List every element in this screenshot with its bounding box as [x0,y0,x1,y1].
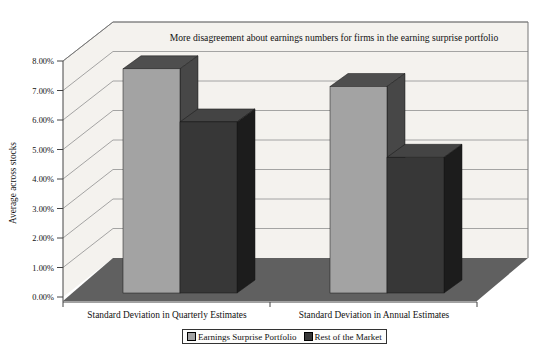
legend-swatch-rest-of-market [304,332,313,341]
chart-legend: Earnings Surprise Portfolio Rest of the … [182,329,387,344]
bar-front-face [123,69,180,293]
chart-plot-area: 0.00%1.00%2.00%3.00%4.00%5.00%6.00%7.00%… [0,0,548,351]
y-tick-label: 2.00% [32,234,54,243]
category-label-quarterly: Standard Deviation in Quarterly Estimate… [87,310,247,320]
chart-title: More disagreement about earnings numbers… [170,32,499,43]
legend-label-earnings-surprise: Earnings Surprise Portfolio [198,332,297,342]
y-axis-title: Average across stocks [8,142,18,224]
chart-3d-column: 0.00%1.00%2.00%3.00%4.00%5.00%6.00%7.00%… [0,0,548,351]
legend-label-rest-of-market: Rest of the Market [315,332,382,342]
bar-front-face [180,122,237,293]
bar-side-face [444,144,462,293]
y-tick-label: 4.00% [32,175,54,184]
category-label-annual: Standard Deviation in Annual Estimates [299,310,450,320]
bar-rest-of-market-annual [387,144,462,293]
y-tick-label: 8.00% [32,57,54,66]
y-tick-label: 0.00% [32,293,54,302]
bar-side-face [237,109,255,293]
bar-rest-of-market-quarterly [180,109,255,293]
y-tick-labels: 0.00%1.00%2.00%3.00%4.00%5.00%6.00%7.00%… [32,57,54,302]
y-tick-label: 6.00% [32,116,54,125]
legend-item-earnings-surprise: Earnings Surprise Portfolio [187,332,297,342]
legend-item-rest-of-market: Rest of the Market [304,332,382,342]
y-tick-label: 5.00% [32,146,54,155]
bar-front-face [330,87,387,294]
legend-swatch-earnings-surprise [187,332,196,341]
bar-front-face [387,157,444,293]
y-tick-label: 1.00% [32,264,54,273]
y-tick-label: 7.00% [32,87,54,96]
y-tick-label: 3.00% [32,205,54,214]
